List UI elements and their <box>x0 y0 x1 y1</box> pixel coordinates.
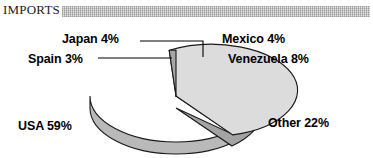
slice-label-japan: Japan 4% <box>62 32 119 46</box>
slice-label-usa: USA 59% <box>18 119 72 133</box>
slice-label-spain: Spain 3% <box>28 52 83 66</box>
slice-label-mexico: Mexico 4% <box>222 32 285 46</box>
pie-slice-spain[interactable] <box>169 50 176 96</box>
pie-chart-figure: IMPORTS <box>0 0 373 158</box>
slice-label-venezuela: Venezuela 8% <box>228 52 309 66</box>
slice-label-other: Other 22% <box>268 116 329 130</box>
pie-chart-canvas <box>0 0 373 158</box>
